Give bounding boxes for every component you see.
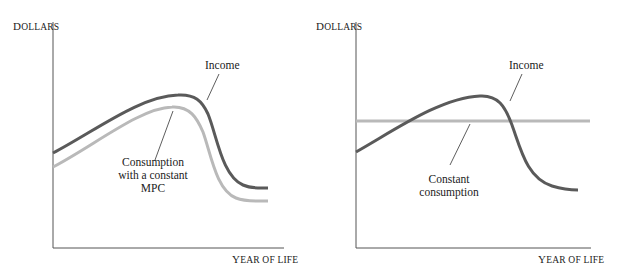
right-income-leader xyxy=(510,74,522,101)
right-income-label: Income xyxy=(509,59,543,72)
left-panel xyxy=(53,22,284,248)
left-income-leader xyxy=(207,74,219,100)
right-y-axis-label: DOLLARS xyxy=(316,20,362,32)
left-consumption-leader xyxy=(155,111,173,160)
right-x-axis-label: YEAR OF LIFE xyxy=(538,253,604,265)
left-consumption-label: Consumption with a constant MPC xyxy=(118,156,188,195)
right-consumption-leader xyxy=(450,124,470,165)
left-income-label: Income xyxy=(205,59,239,72)
right-panel xyxy=(356,22,591,248)
right-consumption-label: Constant consumption xyxy=(417,173,481,199)
left-x-axis-label: YEAR OF LIFE xyxy=(232,253,298,265)
chart-canvas xyxy=(0,0,621,279)
left-y-axis-label: DOLLARS xyxy=(13,20,59,32)
